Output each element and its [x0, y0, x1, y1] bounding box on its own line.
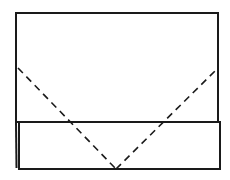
- folded-band-rect: [19, 122, 220, 169]
- fold-diagram: [0, 0, 230, 180]
- band-left-edge-inner: [16, 123, 17, 168]
- paper-sheet: [16, 13, 218, 122]
- folded-band: [16, 122, 220, 169]
